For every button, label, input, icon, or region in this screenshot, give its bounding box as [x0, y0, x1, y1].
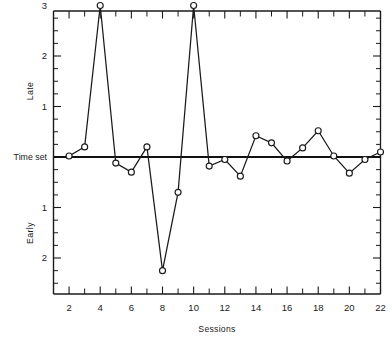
data-point — [362, 157, 368, 163]
x-tick-label: 6 — [129, 302, 134, 313]
data-point — [346, 170, 352, 176]
x-tick-label: 14 — [251, 302, 262, 313]
x-tick-label: 18 — [313, 302, 324, 313]
data-point — [269, 140, 275, 146]
x-tick-label: 8 — [160, 302, 165, 313]
y-tick-label: 1 — [42, 202, 47, 213]
data-point — [206, 163, 212, 169]
x-tick-label: 16 — [282, 302, 293, 313]
y-tick-label: 2 — [42, 50, 47, 61]
x-tick-label: 4 — [98, 302, 103, 313]
data-point — [144, 144, 150, 150]
data-point — [253, 133, 259, 139]
data-point — [128, 169, 134, 175]
data-point — [331, 153, 337, 159]
zero-line-label: Time set — [14, 152, 48, 162]
data-point — [378, 149, 384, 155]
data-point — [66, 153, 72, 159]
y-tick-label: 1 — [42, 101, 47, 112]
data-point — [113, 160, 119, 166]
x-axis-ticks-top — [54, 11, 381, 19]
data-series-line — [69, 6, 380, 271]
x-tick-label: 22 — [375, 302, 386, 313]
y-axis-ticks — [54, 18, 62, 283]
data-point — [82, 144, 88, 150]
y-tick-label: 2 — [42, 252, 47, 263]
x-tick-label: 12 — [219, 302, 230, 313]
data-point — [300, 145, 306, 151]
data-point — [97, 3, 103, 9]
y-axis-upper-label: Late — [25, 82, 35, 101]
data-point — [315, 128, 321, 134]
x-tick-label: 2 — [66, 302, 71, 313]
x-axis-title: Sessions — [198, 324, 235, 334]
x-axis-tick-labels: 246810121416182022 — [66, 302, 385, 313]
data-point — [237, 173, 243, 179]
data-point — [191, 3, 197, 9]
data-point — [160, 268, 166, 274]
x-axis-ticks — [54, 287, 381, 295]
data-point — [175, 189, 181, 195]
x-tick-label: 20 — [344, 302, 355, 313]
line-chart: 321Time set12 246810121416182022 Late Ea… — [0, 0, 392, 339]
y-tick-label: 3 — [42, 0, 47, 11]
data-point — [284, 158, 290, 164]
data-point — [222, 157, 228, 163]
chart-canvas: 321Time set12 246810121416182022 Late Ea… — [0, 0, 392, 339]
y-axis-lower-label: Early — [25, 222, 35, 244]
x-tick-label: 10 — [188, 302, 199, 313]
